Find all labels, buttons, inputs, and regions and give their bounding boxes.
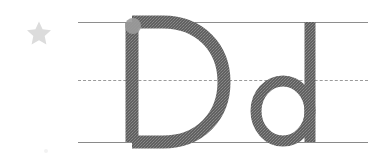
glyph-uppercase-d [125, 18, 224, 142]
letter-glyphs [0, 0, 371, 165]
glyph-lowercase-d [256, 22, 310, 142]
start-dot-icon [125, 18, 141, 34]
paper-speck [44, 149, 48, 153]
handwriting-worksheet [0, 0, 371, 165]
